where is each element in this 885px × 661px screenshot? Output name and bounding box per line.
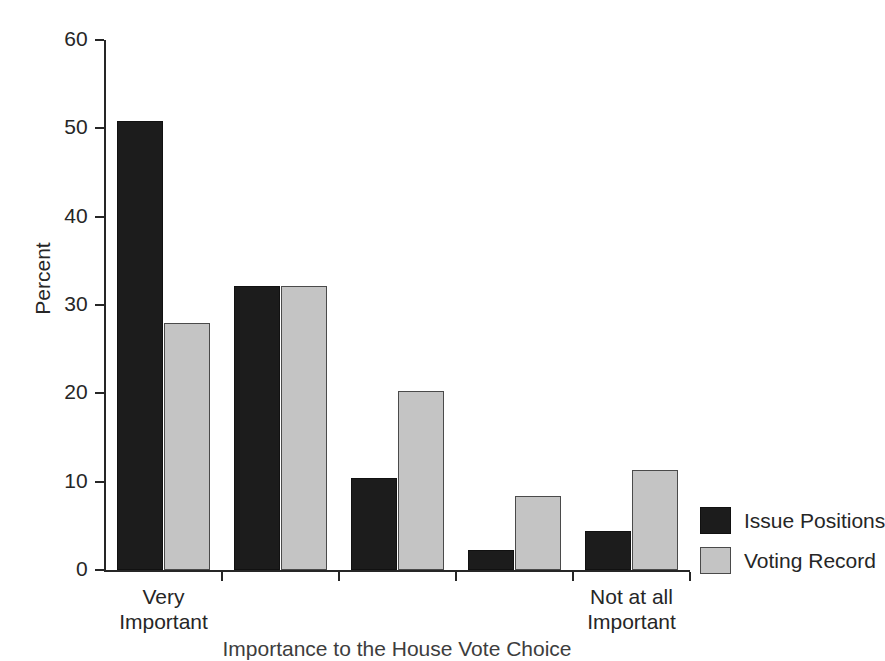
y-axis-line [104,40,106,572]
y-axis-tick-label: 50 [42,116,88,137]
bar-issue-positions-0 [117,121,163,570]
bar-issue-positions-4 [585,531,631,570]
legend-swatch-icon [700,547,731,574]
y-axis-tick-label: 60 [42,28,88,49]
bar-voting-record-1 [281,286,327,570]
y-axis-title: Percent [32,219,53,339]
y-axis-tick: 40 [0,216,104,218]
x-axis-category-label-line1: Very [54,584,274,609]
y-axis-tick-mark [95,39,104,41]
y-axis-tick: 0 [0,569,104,571]
bar-voting-record-3 [515,496,561,570]
y-axis-tick-mark [95,392,104,394]
y-axis-tick: 10 [0,481,104,483]
legend-swatch-icon [700,507,731,534]
x-axis-category-label-line2: Important [522,609,742,634]
bar-voting-record-0 [164,323,210,570]
bar-issue-positions-3 [468,550,514,570]
x-axis-category-label: VeryImportant [54,584,274,634]
bar-voting-record-4 [632,470,678,570]
legend-item-issue-positions[interactable]: Issue Positions [700,500,870,540]
y-axis-tick: 50 [0,127,104,129]
y-axis-tick-label: 20 [42,381,88,402]
chart-legend: Issue PositionsVoting Record [700,500,870,580]
y-axis-tick-mark [95,304,104,306]
legend-label: Voting Record [744,550,876,571]
y-axis-tick-label: 10 [42,470,88,491]
x-axis-tick-mark [572,572,574,581]
x-axis-tick-mark [338,572,340,581]
y-axis-tick-label: 0 [42,558,88,579]
y-axis-tick: 60 [0,39,104,41]
y-axis-tick-mark [95,127,104,129]
bar-voting-record-2 [398,391,444,570]
x-axis-category-label-line1: Not at all [522,584,742,609]
legend-label: Issue Positions [744,510,885,531]
y-axis-tick-mark [95,569,104,571]
x-axis-category-label: Not at allImportant [522,584,742,634]
x-axis-tick-mark [689,572,691,581]
bar-issue-positions-1 [234,286,280,570]
y-axis-tick-mark [95,481,104,483]
x-axis-tick-mark [221,572,223,581]
y-axis-tick-mark [95,216,104,218]
x-axis-title: Importance to the House Vote Choice [104,636,690,661]
y-axis-tick: 20 [0,392,104,394]
bar-issue-positions-2 [351,478,397,570]
x-axis-line [104,570,690,572]
legend-item-voting-record[interactable]: Voting Record [700,540,870,580]
x-axis-tick-mark [455,572,457,581]
x-axis-category-label-line2: Important [54,609,274,634]
